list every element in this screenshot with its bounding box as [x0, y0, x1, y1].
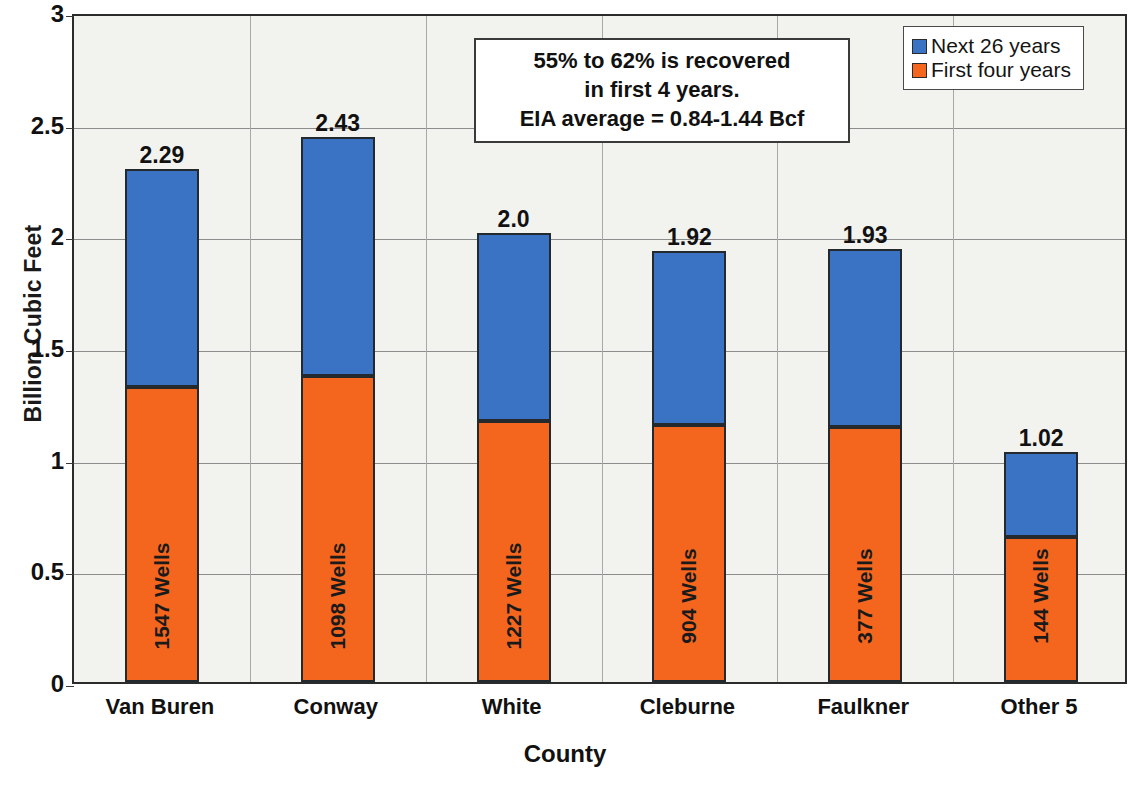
- bar-group[interactable]: 377 Wells: [828, 251, 902, 682]
- page-edge-artifact: [0, 781, 1130, 785]
- gridline: [74, 351, 1125, 352]
- y-axis-tickmark: [66, 686, 74, 687]
- bar-segment-first-four-years[interactable]: 144 Wells: [1004, 537, 1078, 682]
- bar-group[interactable]: 1227 Wells: [477, 235, 551, 682]
- bar-group[interactable]: 1547 Wells: [125, 171, 199, 682]
- bar-segment-next-26-years[interactable]: [125, 169, 199, 388]
- annotation-callout-box: 55% to 62% is recoveredin first 4 years.…: [474, 38, 850, 143]
- y-axis-tickmark: [66, 351, 74, 352]
- bar-wells-label: 144 Wells: [1029, 526, 1053, 666]
- bar-segment-first-four-years[interactable]: 377 Wells: [828, 427, 902, 682]
- bar-group[interactable]: 144 Wells: [1004, 454, 1078, 682]
- x-axis-tick-label: Conway: [294, 694, 378, 720]
- y-axis-tickmark: [66, 128, 74, 129]
- bar-segment-first-four-years[interactable]: 904 Wells: [652, 425, 726, 682]
- gridline: [74, 574, 1125, 575]
- bar-total-label: 2.29: [140, 142, 185, 169]
- bar-wells-label: 1547 Wells: [150, 526, 174, 666]
- y-axis-tickmark: [66, 574, 74, 575]
- bar-segment-first-four-years[interactable]: 1098 Wells: [301, 376, 375, 682]
- bar-segment-first-four-years[interactable]: 1227 Wells: [477, 421, 551, 682]
- chart-legend: Next 26 yearsFirst four years: [903, 26, 1084, 90]
- y-axis-tick-label: 1.5: [2, 335, 64, 363]
- y-axis-tick-label: 0: [2, 670, 64, 698]
- bar-segment-next-26-years[interactable]: [477, 233, 551, 420]
- bar-total-label: 1.92: [667, 224, 712, 251]
- y-axis-tick-labels: 32.521.510.50: [0, 0, 64, 785]
- legend-item[interactable]: First four years: [912, 59, 1071, 81]
- y-axis-tick-label: 2: [2, 223, 64, 251]
- legend-swatch-icon: [912, 39, 927, 54]
- y-axis-tick-label: 2.5: [2, 112, 64, 140]
- y-axis-tick-label: 1: [2, 447, 64, 475]
- x-axis-tick-label: White: [482, 694, 542, 720]
- legend-item-label: Next 26 years: [931, 35, 1061, 57]
- bar-total-label: 1.93: [843, 222, 888, 249]
- x-axis-tick-label: Faulkner: [817, 694, 909, 720]
- y-axis-tickmark: [66, 239, 74, 240]
- bar-segment-next-26-years[interactable]: [1004, 452, 1078, 537]
- bar-total-label: 2.43: [315, 110, 360, 137]
- bar-total-label: 1.02: [1019, 425, 1064, 452]
- bar-group[interactable]: 1098 Wells: [301, 139, 375, 682]
- annotation-line: 55% to 62% is recovered: [486, 46, 838, 75]
- x-axis-tick-label: Van Buren: [106, 694, 215, 720]
- bar-segment-next-26-years[interactable]: [828, 249, 902, 427]
- bar-wells-label: 1098 Wells: [326, 526, 350, 666]
- bar-segment-next-26-years[interactable]: [652, 251, 726, 425]
- bar-segment-next-26-years[interactable]: [301, 137, 375, 376]
- bar-segment-first-four-years[interactable]: 1547 Wells: [125, 387, 199, 682]
- category-separator: [250, 16, 251, 682]
- y-axis-tickmark: [66, 16, 74, 17]
- category-separator: [953, 16, 954, 682]
- y-axis-tickmark: [66, 463, 74, 464]
- legend-swatch-icon: [912, 63, 927, 78]
- annotation-line: in first 4 years.: [486, 75, 838, 104]
- bar-wells-label: 377 Wells: [853, 526, 877, 666]
- legend-item[interactable]: Next 26 years: [912, 35, 1071, 57]
- x-axis-title: County: [0, 740, 1130, 768]
- legend-item-label: First four years: [931, 59, 1071, 81]
- x-axis-tick-label: Cleburne: [640, 694, 735, 720]
- y-axis-tick-label: 3: [2, 0, 64, 28]
- gridline: [74, 239, 1125, 240]
- bar-group[interactable]: 904 Wells: [652, 253, 726, 682]
- y-axis-tick-label: 0.5: [2, 558, 64, 586]
- x-axis-tick-label: Other 5: [1001, 694, 1078, 720]
- bar-wells-label: 904 Wells: [677, 526, 701, 666]
- bar-wells-label: 1227 Wells: [502, 526, 526, 666]
- stacked-bar-chart: Billion Cubic Feet 32.521.510.50 1547 We…: [0, 0, 1130, 785]
- category-separator: [426, 16, 427, 682]
- annotation-line: EIA average = 0.84-1.44 Bcf: [486, 104, 838, 133]
- gridline: [74, 463, 1125, 464]
- bar-total-label: 2.0: [498, 206, 530, 233]
